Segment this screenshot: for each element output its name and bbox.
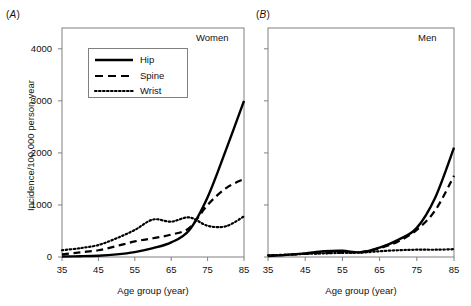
legend: Hip Spine Wrist: [88, 48, 188, 98]
y-tick-label: 3000: [18, 95, 52, 106]
series-line-wrist: [268, 249, 454, 255]
y-tick-label: 0: [18, 251, 52, 262]
x-tick-label: 35: [255, 264, 281, 275]
legend-swatch-solid-icon: [94, 53, 134, 67]
legend-swatch-dashed-icon: [94, 69, 134, 83]
x-tick-label: 75: [195, 264, 221, 275]
series-line-hip: [62, 101, 244, 257]
x-tick-label: 45: [292, 264, 318, 275]
legend-item-spine: Spine: [94, 69, 186, 83]
y-tick-label: 1000: [18, 199, 52, 210]
x-tick-label: 65: [367, 264, 393, 275]
legend-label-spine: Spine: [140, 70, 164, 81]
series-group-women: [62, 101, 244, 257]
x-tick-label: 75: [404, 264, 430, 275]
series-line-hip: [268, 148, 454, 256]
x-tick-label: 65: [158, 264, 184, 275]
legend-label-hip: Hip: [140, 54, 154, 65]
x-tick-label: 55: [122, 264, 148, 275]
x-tick-label: 35: [49, 264, 75, 275]
y-tick-label: 2000: [18, 147, 52, 158]
x-tick-label: 85: [231, 264, 257, 275]
series-line-wrist: [62, 216, 244, 250]
legend-item-wrist: Wrist: [94, 84, 186, 98]
x-tick-label: 45: [85, 264, 111, 275]
plot-svg: [0, 0, 471, 306]
series-line-spine: [62, 179, 244, 254]
series-group-men: [268, 148, 454, 256]
legend-item-hip: Hip: [94, 53, 186, 67]
legend-swatch-dotted-icon: [94, 84, 134, 98]
x-tick-label: 55: [329, 264, 355, 275]
legend-label-wrist: Wrist: [140, 85, 161, 96]
y-tick-label: 4000: [18, 43, 52, 54]
x-tick-label: 85: [441, 264, 467, 275]
figure-container: (A) (B) Women Men Incidence/100,000 pers…: [0, 0, 471, 306]
